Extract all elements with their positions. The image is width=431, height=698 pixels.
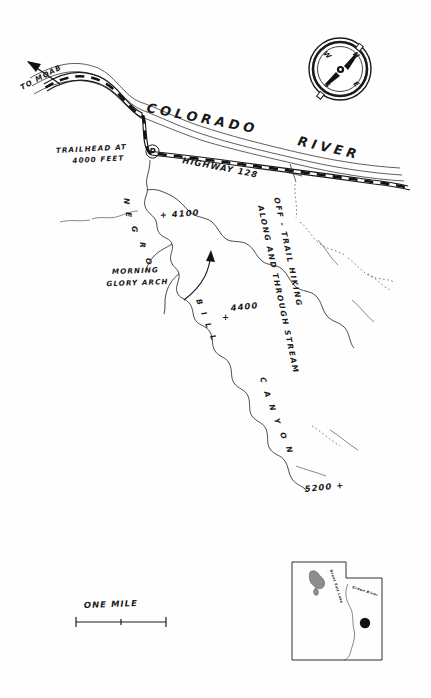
canyon-letter-r: R [138,242,147,249]
utah-inset-map: Great Salt Lake Green River [292,562,382,660]
colorado-river-label-2: RIVER [296,133,362,162]
canyon-letter-y: Y [272,417,283,426]
parking-letter: P [149,147,156,157]
elevation-5200: 5200 + [304,480,345,494]
canyon-letter-g: G [130,226,139,234]
morning-glory-line2: GLORY ARCH [106,277,169,288]
bill-letter-l2: L [208,334,219,343]
canyon-letter-e: E [124,212,133,219]
map-drawing: TO MOAB COLORADO RIVER TRAILHEAD AT 4000… [0,0,431,698]
scale-bar: ONE MILE [76,598,166,627]
canyon-letter-n2: N [284,445,295,455]
bill-letter-l1: L [203,322,214,331]
trailhead-label: TRAILHEAD AT 4000 FEET [56,142,128,166]
elev-4100-text: + 4100 [159,207,199,220]
trail-map-canvas: TO MOAB COLORADO RIVER TRAILHEAD AT 4000… [0,0,431,698]
compass-rose: N E S W [309,38,371,100]
canyon-name-canyon: C A N Y O N [258,376,295,455]
inset-river-line [344,584,355,660]
canyon-name-vertical-negro: N E G R O [122,198,153,266]
bill-letter-i: I [199,311,209,318]
elevation-4100: + 4100 [159,207,199,220]
bill-letter-b: B [194,298,205,308]
location-dot-icon [360,618,370,628]
elev-5200-text: 5200 + [304,480,345,494]
morning-glory-arch-arrow [184,250,215,300]
elev-4400-cross: + [222,312,230,322]
trailhead-line2: 4000 FEET [72,153,124,165]
canyon-letter-c: C [258,376,269,385]
canyon-letter-n: N [122,198,131,206]
inset-lake-label: Great Salt Lake [329,569,344,604]
canyon-name-bill: B I L L [194,298,219,343]
highway-128-text: HIGHWAY 128 [182,155,260,180]
svg-text:Green River: Green River [352,585,379,597]
morning-glory-arch-label: MORNING GLORY ARCH [106,265,169,288]
canyon-letter-a: A [262,389,273,400]
canyon-letter-n1: N [267,403,278,413]
scale-label: ONE MILE [84,598,138,610]
svg-text:Great Salt Lake: Great Salt Lake [329,569,344,604]
morning-glory-line1: MORNING [112,265,159,276]
highway-label: HIGHWAY 128 [182,155,260,180]
side-canyon-dotted-lines [296,222,394,476]
canyon-letter-o: O [278,431,289,441]
inset-river-label: Green River [352,585,379,597]
river-label-river: RIVER [296,133,362,162]
great-salt-lake-shape [309,571,324,589]
elev-4400-text: 4400 [229,300,259,313]
elevation-4400: 4400 + [222,300,259,322]
canyon-letter-o: O [144,258,153,266]
